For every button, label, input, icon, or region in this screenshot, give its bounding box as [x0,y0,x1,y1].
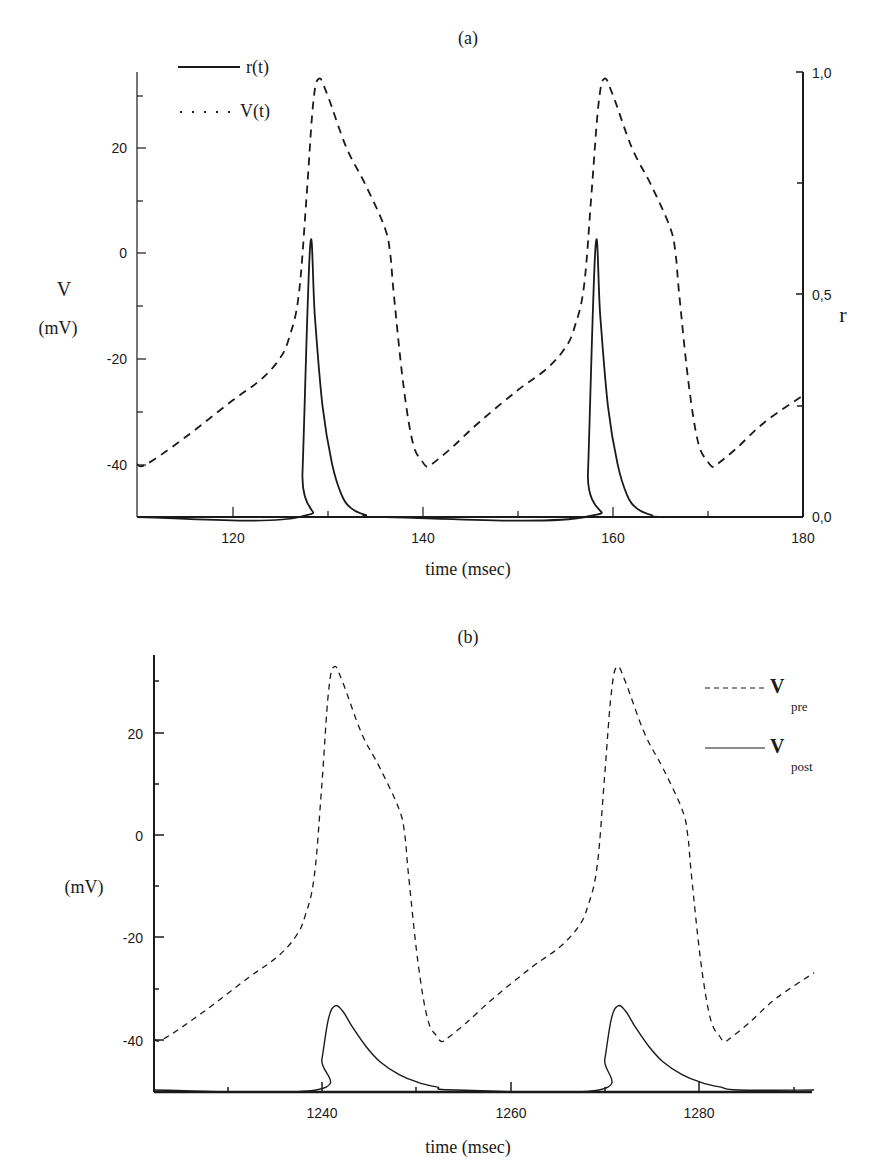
legend-post-sub: post [791,759,813,774]
figure: (a) 20 0 -20 -40 1,0 0,5 0,0 [0,0,872,1173]
panel-a-xtick-label: 140 [411,530,435,546]
panel-b-y-ticks [154,681,164,1040]
legend-pre-sub: pre [791,699,808,714]
panel-a-right-ticks [796,72,803,406]
panel-a-ytick-label: -40 [107,457,127,473]
panel-a-ylabel-unit: (mV) [39,318,78,339]
panel-a-ytick-label: 20 [111,140,127,156]
legend-pre-main: V [770,675,785,697]
panel-a-rtick-label: 1,0 [812,65,832,81]
panel-a-title: (a) [458,28,478,49]
legend-v-label: V(t) [240,101,270,122]
panel-b-xtick-label: 1280 [683,1105,714,1121]
panel-a-rtick-label: 0,5 [812,287,832,303]
panel-a-v-curve [137,78,803,467]
panel-a-ytick-label: 0 [119,245,127,261]
panel-b-legend: V pre V post [705,675,813,774]
panel-b: (b) 20 0 -20 -40 1240 1260 1280 [65,627,815,1158]
panel-b-xlabel: time (msec) [425,1137,510,1158]
panel-b-title: (b) [458,627,479,648]
panel-b-xtick-label: 1260 [495,1105,526,1121]
panel-a-ytick-label: -20 [107,351,127,367]
panel-a-ylabel-right: r [839,302,847,327]
panel-b-vpost-curve [154,1006,814,1093]
panel-a: (a) 20 0 -20 -40 1,0 0,5 0,0 [39,28,848,580]
panel-a-rtick-label: 0,0 [812,509,832,525]
panel-a-xtick-label: 160 [601,530,625,546]
panel-b-ytick-label: 0 [135,828,143,844]
panel-b-ytick-label: 20 [127,726,143,742]
panel-b-ytick-label: -40 [123,1033,143,1049]
panel-b-ylabel: (mV) [65,877,104,898]
panel-a-legend: r(t) V(t) [178,57,270,122]
panel-b-ytick-label: -20 [123,930,143,946]
panel-a-r-curve [137,239,803,521]
legend-post-main: V [770,735,785,757]
legend-r-label: r(t) [246,57,269,78]
panel-a-xtick-label: 120 [221,530,245,546]
panel-a-xlabel: time (msec) [425,559,510,580]
panel-a-y-ticks [137,96,146,465]
panel-a-ylabel-v: V [57,278,72,300]
panel-b-vpre-curve [154,666,814,1041]
panel-b-xtick-label: 1240 [306,1105,337,1121]
panel-a-xtick-label: 180 [791,530,815,546]
